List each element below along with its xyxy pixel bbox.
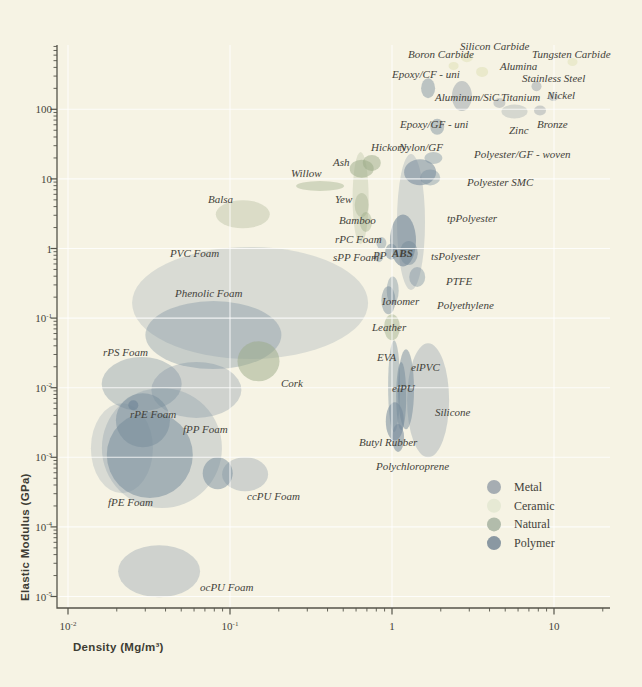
legend-label-metal: Metal <box>514 480 543 494</box>
material-label-leather: Leather <box>371 321 407 333</box>
material-label-abs: ABS <box>391 247 413 259</box>
material-label-bamboo: Bamboo <box>339 214 376 226</box>
material-label-pvc-foam: PVC Foam <box>169 247 219 259</box>
material-label-cork: Cork <box>281 377 304 389</box>
legend-swatch-ceramic <box>487 499 501 513</box>
bubble-rpe-foam <box>116 393 170 447</box>
material-label-polyester-smc: Polyester SMC <box>466 176 534 188</box>
bubble-ccpu-foam <box>203 457 233 489</box>
material-label-rps-foam: rPS Foam <box>103 346 148 358</box>
material-label-hickory: Hickory <box>370 141 407 153</box>
legend-label-natural: Natural <box>514 517 551 531</box>
y-tick-label: 100 <box>36 103 53 115</box>
material-label-ptfe: PTFE <box>445 275 473 287</box>
material-label-eva: EVA <box>376 351 397 363</box>
material-label-stainless-steel: Stainless Steel <box>522 72 585 84</box>
material-label-ocpu-foam: ocPU Foam <box>200 581 254 593</box>
bubble-hickory <box>363 155 381 171</box>
material-label-titanium: Titanium <box>501 91 540 103</box>
material-label-rpe-foam: rPE Foam <box>130 408 176 420</box>
x-tick-label: 1 <box>389 620 395 632</box>
bubble-zinc <box>502 105 528 119</box>
bubble-polyester-smc <box>420 169 440 185</box>
material-label-yew: Yew <box>335 193 353 205</box>
bubble-bronze <box>534 106 546 116</box>
material-label-ash: Ash <box>332 156 350 168</box>
x-axis-title: Density (Mg/m³) <box>73 641 164 653</box>
material-label-butyl-rubber: Butyl Rubber <box>359 436 418 448</box>
bubble-epoxy-cf-uni <box>421 78 435 98</box>
legend-swatch-polymer <box>487 536 501 550</box>
bubble-alumina <box>476 67 488 77</box>
material-label-polychloroprene: Polychloroprene <box>375 460 449 472</box>
bubble-ocpu-foam <box>118 545 200 597</box>
legend-label-ceramic: Ceramic <box>514 499 555 513</box>
material-label-ionomer: Ionomer <box>381 295 420 307</box>
bubble-willow <box>296 181 344 191</box>
material-label-elpu: elPU <box>392 382 416 394</box>
material-label-tppolyester: tpPolyester <box>447 212 498 224</box>
bubble-ptfe <box>409 267 425 287</box>
material-label-polyester-gf-woven: Polyester/GF - woven <box>473 148 571 160</box>
material-label-willow: Willow <box>291 167 322 179</box>
bubble-elpu <box>396 362 406 430</box>
material-label-fpp-foam: fPP Foam <box>183 423 228 435</box>
ashby-chart: 10-210-111010010110-110-210-310-410-5 Bo… <box>0 0 642 687</box>
material-label-silicon-carbide: Silicon Carbide <box>460 40 529 52</box>
material-label-polyethylene: Polyethylene <box>436 299 494 311</box>
legend-swatch-natural <box>487 517 501 531</box>
bubble-polyester-gf-woven <box>424 152 442 164</box>
material-label-silicone: Silicone <box>435 406 471 418</box>
material-label-aluminum-sic: Aluminum/SiC <box>434 91 500 103</box>
material-label-rpc-foam: rPC Foam <box>335 233 382 245</box>
material-label-zinc: Zinc <box>509 124 529 136</box>
material-label-pp: PP <box>372 249 387 261</box>
y-tick-label: 1 <box>47 243 53 255</box>
x-tick-label: 10 <box>549 620 561 632</box>
legend-swatch-metal <box>487 480 501 494</box>
material-label-phenolic-foam: Phenolic Foam <box>174 287 243 299</box>
material-label-fpe-foam: fPE Foam <box>108 496 153 508</box>
material-label-balsa: Balsa <box>208 193 234 205</box>
material-label-tspolyester: tsPolyester <box>431 250 481 262</box>
material-label-epoxy-gf-uni: Epoxy/GF - uni <box>399 118 468 130</box>
bubble-cork <box>238 341 280 381</box>
material-label-bronze: Bronze <box>537 118 568 130</box>
material-label-elpvc: elPVC <box>411 361 440 373</box>
material-label-nickel: Nickel <box>546 89 575 101</box>
legend-label-polymer: Polymer <box>514 536 555 550</box>
material-label-alumina: Alumina <box>499 60 538 72</box>
chart-canvas: 10-210-111010010110-110-210-310-410-5 Bo… <box>0 0 642 687</box>
material-label-tungsten-carbide: Tungsten Carbide <box>532 48 611 60</box>
y-tick-label: 10 <box>41 173 53 185</box>
material-label-ccpu-foam: ccPU Foam <box>247 490 300 502</box>
material-label-epoxy-cf-uni: Epoxy/CF - uni <box>391 68 460 80</box>
y-axis-title: Elastic Modulus (GPa) <box>19 473 31 601</box>
